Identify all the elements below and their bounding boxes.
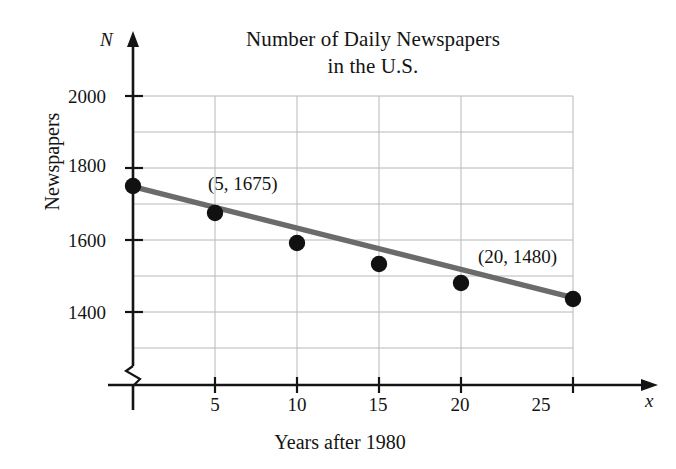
data-point-0 [125, 178, 141, 194]
data-point-10 [289, 235, 305, 251]
x-axis-arrowhead [641, 379, 658, 391]
data-point-5 [207, 205, 223, 221]
trend-line [133, 187, 573, 298]
plot-area [0, 0, 676, 469]
data-point-20 [453, 275, 469, 291]
newspapers-chart-figure: Number of Daily Newspapers in the U.S. N… [0, 0, 676, 469]
y-axis-arrowhead [127, 31, 139, 47]
y-axis-break-icon [126, 366, 140, 386]
data-point-25 [565, 291, 581, 307]
data-point-15 [371, 256, 387, 272]
axes [108, 45, 643, 410]
grid-lines-horizontal [133, 96, 573, 348]
